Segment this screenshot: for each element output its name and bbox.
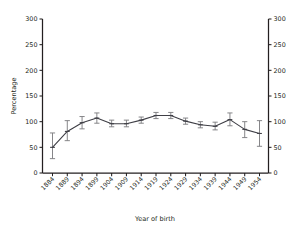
y-tick-label-left: 150 — [25, 92, 37, 100]
y-tick-label-left: 100 — [25, 118, 37, 126]
x-tick-label: 1884 — [39, 175, 55, 191]
y-tick-label-right: 100 — [274, 118, 286, 126]
x-tick-label: 1954 — [246, 175, 262, 191]
x-axis: 1884188918941899190419091914191919241929… — [39, 173, 268, 191]
y-tick-label-right: 0 — [274, 169, 278, 177]
chart-figure: 050100150200250300 050100150200250300 18… — [0, 0, 307, 228]
y-tick-label-left: 50 — [29, 144, 37, 152]
x-tick-label: 1949 — [232, 175, 248, 191]
left-y-axis: 050100150200250300 — [25, 15, 42, 177]
line-chart-with-error-bars: 050100150200250300 050100150200250300 18… — [0, 0, 307, 228]
x-tick-label: 1934 — [187, 175, 203, 191]
y-tick-label-right: 300 — [274, 15, 286, 23]
x-tick-label: 1899 — [84, 175, 100, 191]
y-tick-label-left: 250 — [25, 41, 37, 49]
y-tick-label-left: 300 — [25, 15, 37, 23]
x-tick-label: 1919 — [143, 175, 159, 191]
y-tick-label-right: 50 — [274, 144, 282, 152]
x-tick-label: 1944 — [217, 175, 233, 191]
x-tick-label: 1904 — [98, 175, 114, 191]
x-tick-label: 1894 — [69, 175, 85, 191]
y-tick-label-left: 0 — [33, 169, 37, 177]
x-axis-title: Year of birth — [134, 215, 175, 223]
x-tick-label: 1914 — [128, 175, 144, 191]
right-y-axis: 050100150200250300 — [269, 15, 286, 177]
series-line — [53, 116, 260, 148]
y-tick-label-left: 200 — [25, 67, 37, 75]
x-tick-label: 1924 — [158, 175, 174, 191]
y-tick-label-right: 250 — [274, 41, 286, 49]
x-tick-label: 1929 — [172, 175, 188, 191]
y-tick-label-right: 200 — [274, 67, 286, 75]
x-tick-label: 1939 — [202, 175, 218, 191]
x-tick-label: 1909 — [113, 175, 129, 191]
series-polyline — [53, 116, 260, 148]
y-tick-label-right: 150 — [274, 92, 286, 100]
y-axis-title: Percentage — [10, 77, 18, 114]
x-tick-label: 1889 — [54, 175, 70, 191]
